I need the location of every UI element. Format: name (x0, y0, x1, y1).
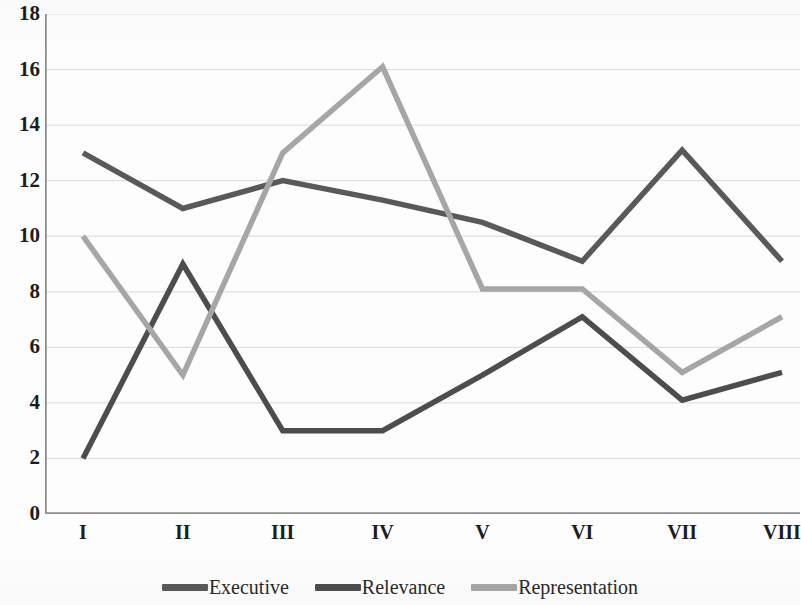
x-tick-label: IV (371, 522, 393, 542)
x-tick-label: II (175, 522, 191, 542)
x-tick-label: VIII (763, 522, 801, 542)
x-tick-label: V (475, 522, 489, 542)
y-tick-label: 16 (2, 59, 40, 80)
plot-area (45, 14, 800, 514)
series-line-executive (83, 150, 782, 261)
y-tick-label: 6 (2, 336, 40, 357)
legend-color-swatch (162, 584, 208, 591)
x-tick-label: VII (667, 522, 697, 542)
y-tick-label: 0 (2, 503, 40, 524)
y-tick-label: 8 (2, 281, 40, 302)
legend-label: Relevance (362, 577, 445, 597)
y-tick-label: 14 (2, 114, 40, 135)
legend-color-swatch (471, 584, 517, 591)
legend-label: Representation (518, 577, 638, 597)
y-tick-label: 10 (2, 225, 40, 246)
y-tick-label: 12 (2, 170, 40, 191)
y-tick-label: 2 (2, 447, 40, 468)
chart-canvas (45, 14, 800, 514)
y-tick-label: 18 (2, 3, 40, 24)
y-tick-label: 4 (2, 392, 40, 413)
x-tick-label: VI (571, 522, 593, 542)
legend-item[interactable]: Representation (471, 577, 638, 597)
series-line-representation (83, 67, 782, 375)
x-tick-label: I (79, 522, 87, 542)
gridlines (45, 14, 800, 458)
x-tick-label: III (271, 522, 294, 542)
chart-legend: ExecutiveRelevanceRepresentation (0, 572, 800, 602)
legend-label: Executive (209, 577, 289, 597)
legend-color-swatch (315, 584, 361, 591)
y-axis-tick-labels: 024681012141618 (0, 14, 40, 514)
legend-item[interactable]: Executive (162, 577, 289, 597)
x-axis-tick-labels: IIIIIIIVVVIVIIVIII (45, 522, 800, 554)
legend-item[interactable]: Relevance (315, 577, 445, 597)
